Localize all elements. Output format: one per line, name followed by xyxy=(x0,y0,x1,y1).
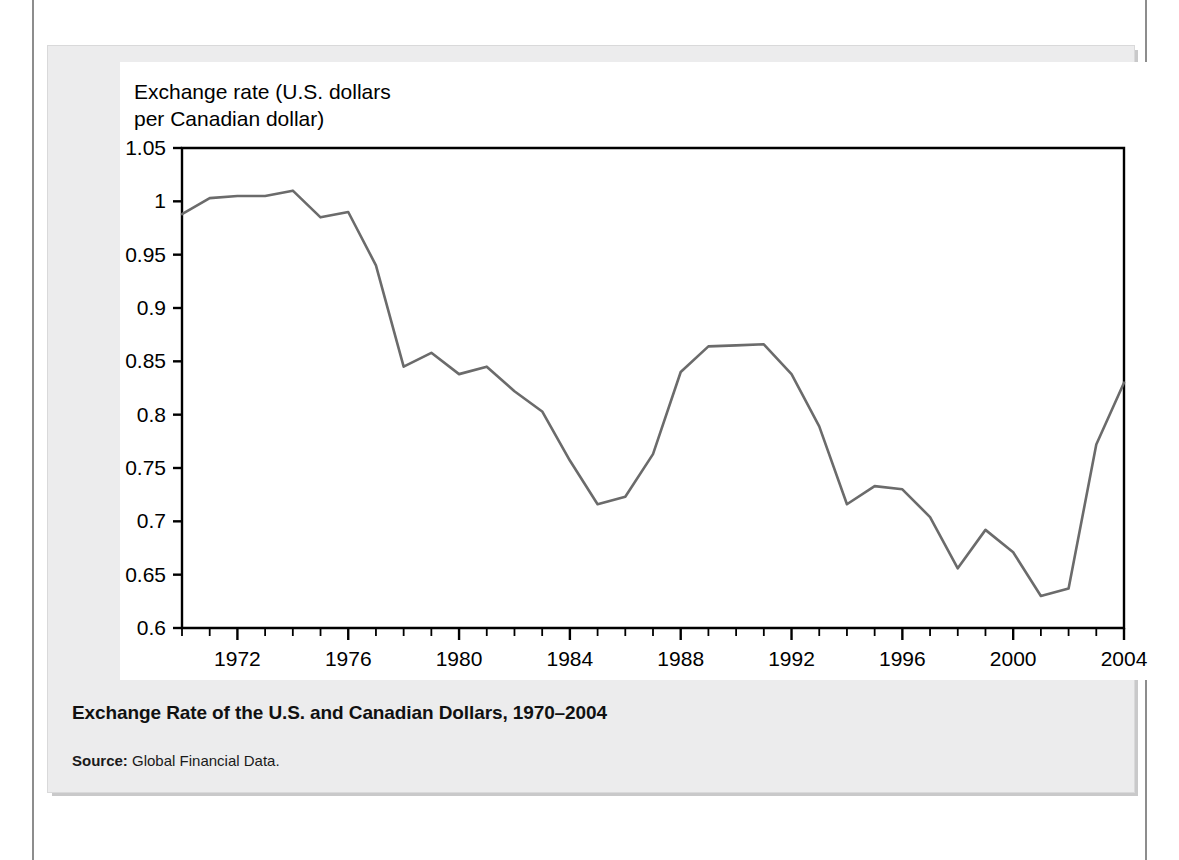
x-axis-tick-label: 1996 xyxy=(879,647,926,670)
y-axis-tick-label: 0.7 xyxy=(137,509,166,532)
figure-caption-title: Exchange Rate of the U.S. and Canadian D… xyxy=(72,702,607,724)
caption-band: Exchange Rate of the U.S. and Canadian D… xyxy=(48,680,1134,792)
source-label: Source: xyxy=(72,752,128,769)
y-axis-tick-label: 0.6 xyxy=(137,616,166,639)
x-axis-tick-label: 1976 xyxy=(325,647,372,670)
y-axis-tick-label: 0.8 xyxy=(137,403,166,426)
x-axis-tick-label: 1992 xyxy=(768,647,815,670)
figure-box: Exchange rate (U.S. dollars per Canadian… xyxy=(48,46,1134,792)
x-axis-tick-label: 1972 xyxy=(214,647,261,670)
chart-svg: 1.0510.950.90.850.80.750.70.650.61972197… xyxy=(120,62,1160,680)
y-axis-tick-label: 0.9 xyxy=(137,296,166,319)
source-text: Global Financial Data. xyxy=(132,752,280,769)
figure-source: Source: Global Financial Data. xyxy=(72,752,280,769)
page-rule-left xyxy=(32,0,34,860)
axis-frame xyxy=(182,148,1124,628)
line-chart: 1.0510.950.90.850.80.750.70.650.61972197… xyxy=(120,62,1160,680)
data-line xyxy=(182,191,1124,596)
x-axis-tick-label: 2004 xyxy=(1101,647,1148,670)
x-axis-tick-label: 1984 xyxy=(547,647,594,670)
x-axis-tick-label: 1988 xyxy=(657,647,704,670)
plot-panel: Exchange rate (U.S. dollars per Canadian… xyxy=(120,62,1160,680)
y-axis-tick-label: 0.95 xyxy=(125,243,166,266)
y-axis-tick-label: 1.05 xyxy=(125,136,166,159)
x-axis-tick-label: 2000 xyxy=(990,647,1037,670)
y-axis-tick-label: 0.75 xyxy=(125,456,166,479)
y-axis-tick-label: 0.65 xyxy=(125,563,166,586)
y-axis-tick-label: 1 xyxy=(154,189,166,212)
y-axis-tick-label: 0.85 xyxy=(125,349,166,372)
x-axis-tick-label: 1980 xyxy=(436,647,483,670)
